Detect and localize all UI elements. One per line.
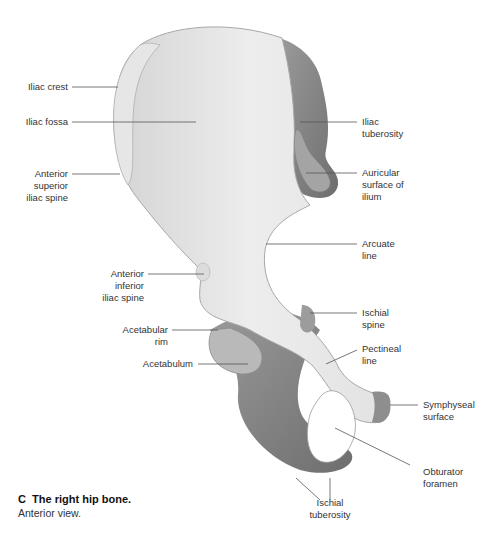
label-auricular-surface: Auricular surface of ilium	[362, 167, 404, 203]
label-iliac-tuberosity: Iliac tuberosity	[362, 116, 403, 140]
hip-bone-figure: Iliac crest Iliac fossa Anterior superio…	[0, 0, 501, 543]
figure-caption: C The right hip bone. Anterior view.	[18, 492, 131, 520]
label-arcuate-line: Arcuate line	[362, 238, 395, 262]
label-iliac-crest: Iliac crest	[28, 81, 68, 93]
label-acetabulum: Acetabulum	[143, 358, 193, 370]
label-symphyseal-surface: Symphyseal surface	[423, 399, 475, 423]
caption-title-text: The right hip bone.	[32, 493, 131, 505]
label-acetabular-rim: Acetabular rim	[123, 324, 168, 348]
label-obturator-foramen: Obturator foramen	[423, 466, 463, 490]
symphyseal-shape	[372, 392, 390, 423]
label-iliac-fossa: Iliac fossa	[26, 116, 68, 128]
caption-subtitle: Anterior view.	[18, 506, 131, 520]
label-anterior-superior-iliac-spine: Anterior superior iliac spine	[26, 168, 68, 204]
label-ischial-tuberosity: Ischial tuberosity	[300, 497, 360, 521]
hip-bone-illustration	[0, 0, 501, 543]
caption-title: C The right hip bone.	[18, 492, 131, 506]
label-pectineal-line: Pectineal line	[362, 343, 401, 367]
caption-letter: C	[18, 493, 26, 505]
label-ischial-spine: Ischial spine	[362, 307, 389, 331]
aiis-shape	[196, 263, 210, 281]
ischial-spine-shape	[300, 305, 315, 333]
label-anterior-inferior-iliac-spine: Anterior inferior iliac spine	[102, 268, 144, 304]
